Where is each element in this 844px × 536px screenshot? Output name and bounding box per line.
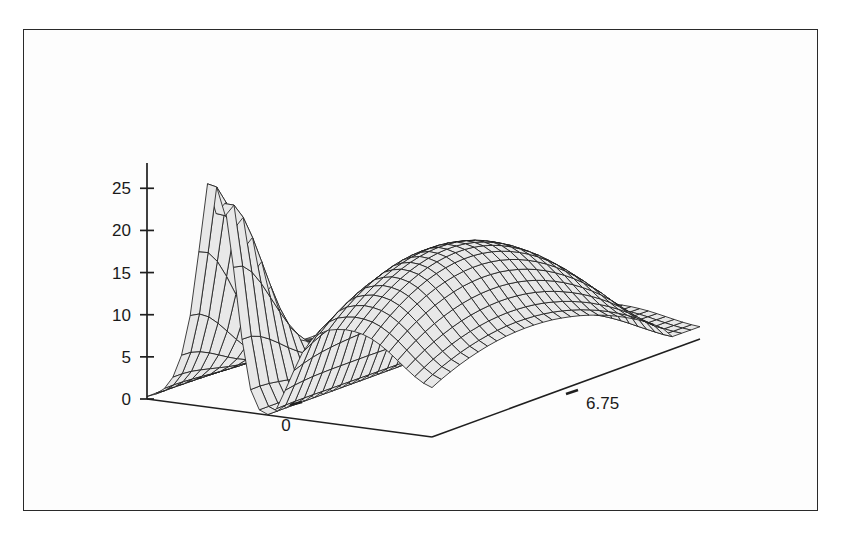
z-axis-tick-label: 10 bbox=[112, 306, 131, 325]
z-axis-tick-label: 5 bbox=[122, 348, 131, 367]
figure-canvas: 0 6.75 0510152025 bbox=[0, 0, 844, 536]
z-axis-tick-label: 0 bbox=[122, 390, 131, 409]
z-axis-tick-label: 25 bbox=[112, 179, 131, 198]
wireframe-surface bbox=[147, 184, 700, 415]
surface-plot: 0 6.75 0510152025 bbox=[0, 0, 844, 536]
y-axis-tick-label: 6.75 bbox=[586, 394, 619, 413]
z-axis-tick-label: 15 bbox=[112, 264, 131, 283]
y-axis-tick bbox=[566, 390, 578, 394]
x-axis-tick-label: 0 bbox=[281, 416, 290, 435]
z-tick-label-group: 0510152025 bbox=[112, 179, 131, 409]
z-axis-tick-label: 20 bbox=[112, 221, 131, 240]
